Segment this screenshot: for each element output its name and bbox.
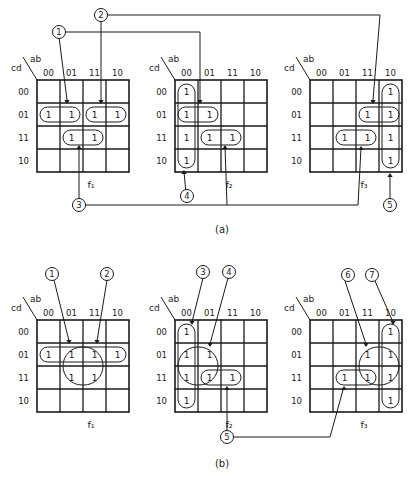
cell-one: 1 [92, 110, 98, 120]
col-label: 11 [227, 68, 238, 78]
col-label: 01 [339, 308, 350, 318]
col-var-label: ab [168, 54, 180, 64]
row-label: 10 [18, 156, 29, 166]
cell-one: 1 [115, 350, 121, 360]
row-label: 10 [156, 156, 167, 166]
cell-one: 1 [388, 327, 394, 337]
col-var-label: ab [303, 294, 315, 304]
svg-text:2: 2 [98, 10, 103, 20]
col-label: 10 [112, 308, 123, 318]
col-label: 00 [43, 68, 54, 78]
svg-text:5: 5 [224, 432, 229, 442]
callout-a-5: 5 [384, 199, 397, 212]
col-label: 01 [66, 308, 77, 318]
row-label: 11 [18, 373, 29, 383]
callout-a-1: 1 [53, 26, 66, 39]
col-var-label: ab [303, 54, 315, 64]
cell-one: 1 [365, 110, 371, 120]
callout-b-7: 7 [366, 269, 379, 282]
col-label: 10 [250, 68, 261, 78]
callout-b-1: 1 [46, 268, 59, 281]
row-label: 11 [291, 373, 302, 383]
row-label: 01 [291, 110, 302, 120]
col-label: 00 [43, 308, 54, 318]
row-var-label: cd [284, 303, 295, 313]
svg-text:5: 5 [387, 200, 392, 210]
cell-one: 1 [207, 133, 213, 143]
row-label: 11 [291, 133, 302, 143]
col-label: 11 [362, 308, 373, 318]
row-label: 01 [18, 110, 29, 120]
caption-a: (a) [215, 224, 229, 235]
function-label: f₁ [87, 419, 94, 430]
callout-a-4: 4 [181, 190, 194, 203]
function-label: f₃ [360, 419, 367, 430]
callout-b-2: 2 [101, 268, 114, 281]
col-label: 10 [385, 68, 396, 78]
col-label: 01 [204, 68, 215, 78]
col-label: 10 [112, 68, 123, 78]
cell-one: 1 [365, 133, 371, 143]
kmap-part-a-f3: abcd00011110000111101111111f₃ [284, 54, 402, 190]
svg-text:2: 2 [104, 269, 109, 279]
svg-text:7: 7 [369, 270, 374, 280]
row-var-label: cd [11, 63, 22, 73]
row-var-label: cd [284, 63, 295, 73]
row-var-label: cd [11, 303, 22, 313]
cell-one: 1 [342, 373, 348, 383]
cell-one: 1 [230, 373, 236, 383]
cell-one: 1 [388, 110, 394, 120]
svg-text:4: 4 [226, 267, 231, 277]
callout-a-3: 3 [73, 199, 86, 212]
cell-one: 1 [184, 110, 190, 120]
row-label: 01 [156, 350, 167, 360]
function-label: f₃ [360, 179, 367, 190]
row-label: 10 [156, 396, 167, 406]
row-label: 00 [156, 87, 167, 97]
row-label: 10 [18, 396, 29, 406]
cell-one: 1 [230, 133, 236, 143]
col-label: 01 [66, 68, 77, 78]
row-label: 00 [156, 327, 167, 337]
col-label: 00 [181, 308, 192, 318]
col-label: 10 [250, 308, 261, 318]
callout-b-3: 3 [197, 266, 210, 279]
karnaugh-map-figure: abcd0001111000011110111111f₁abcd00011110… [0, 0, 414, 478]
callout-b-4: 4 [223, 266, 236, 279]
row-label: 01 [291, 350, 302, 360]
svg-text:3: 3 [200, 267, 205, 277]
svg-text:6: 6 [345, 270, 350, 280]
kmap-part-b-f1: abcd0001111000011110111111f₁ [11, 294, 129, 430]
svg-text:1: 1 [49, 269, 54, 279]
cell-one: 1 [92, 133, 98, 143]
col-label: 00 [181, 68, 192, 78]
col-label: 01 [204, 308, 215, 318]
col-label: 01 [339, 68, 350, 78]
cell-one: 1 [184, 396, 190, 406]
cell-one: 1 [388, 396, 394, 406]
callout-a-2: 2 [95, 9, 108, 22]
col-var-label: ab [168, 294, 180, 304]
cell-one: 1 [184, 156, 190, 166]
cell-one: 1 [207, 110, 213, 120]
col-var-label: ab [30, 294, 42, 304]
row-label: 11 [18, 133, 29, 143]
svg-text:4: 4 [184, 191, 189, 201]
cell-one: 1 [46, 110, 52, 120]
col-label: 11 [227, 308, 238, 318]
cell-one: 1 [115, 110, 121, 120]
cell-one: 1 [46, 350, 52, 360]
row-label: 01 [156, 110, 167, 120]
caption-b: (b) [215, 458, 229, 469]
row-label: 00 [18, 87, 29, 97]
kmap-part-a-f1: abcd0001111000011110111111f₁ [11, 54, 129, 190]
col-label: 00 [316, 68, 327, 78]
row-label: 00 [291, 87, 302, 97]
callout-b-5: 5 [221, 431, 234, 444]
cell-one: 1 [388, 133, 394, 143]
row-label: 00 [291, 327, 302, 337]
row-label: 10 [291, 156, 302, 166]
row-label: 11 [156, 373, 167, 383]
col-label: 11 [89, 68, 100, 78]
cell-one: 1 [388, 156, 394, 166]
